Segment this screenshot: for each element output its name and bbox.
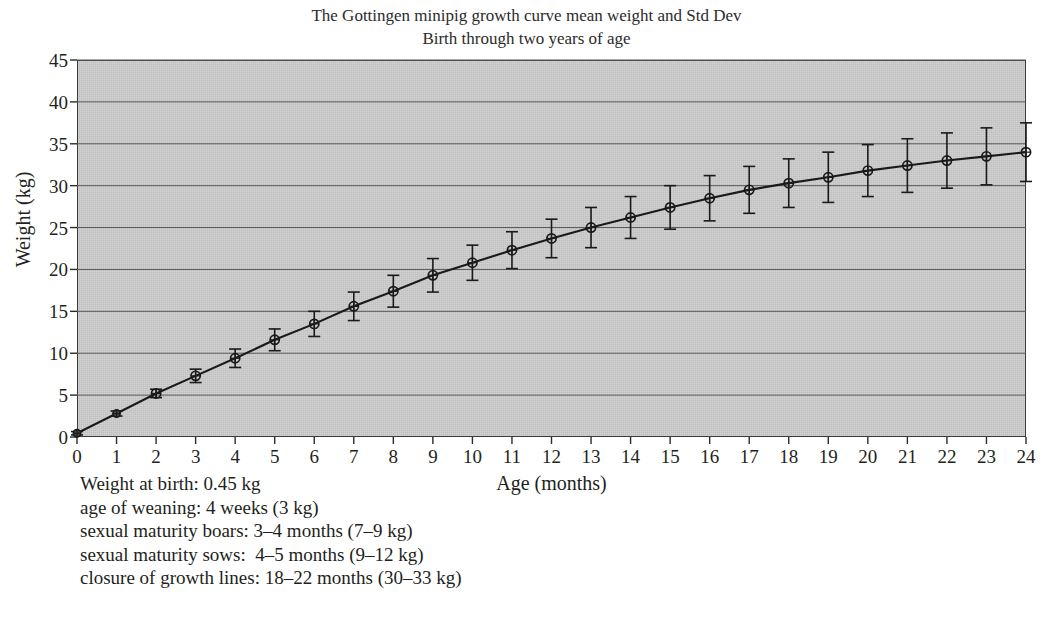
data-point-marker (428, 271, 437, 280)
data-point-marker (1021, 148, 1030, 157)
x-tick-label: 8 (373, 447, 413, 466)
x-tick-label: 10 (452, 447, 492, 466)
data-point-marker (507, 246, 516, 255)
data-point-marker (349, 302, 358, 311)
y-tick-label: 45 (8, 51, 68, 70)
y-tick-label: 10 (8, 344, 68, 363)
x-axis-tick-labels: 0123456789101112131415161718192021222324 (77, 447, 1026, 473)
data-point-marker (824, 173, 833, 182)
data-point-marker (191, 371, 200, 380)
footnote-block: Weight at birth: 0.45 kgage of weaning: … (80, 472, 462, 590)
x-tick-label: 22 (927, 447, 967, 466)
y-tick-label: 40 (8, 93, 68, 112)
x-tick-label: 9 (413, 447, 453, 466)
x-tick-label: 24 (1006, 447, 1046, 466)
data-point-marker (547, 234, 556, 243)
chart-title-line-1: The Gottingen minipig growth curve mean … (0, 4, 1053, 27)
growth-curve-figure: The Gottingen minipig growth curve mean … (0, 0, 1053, 620)
footnote-line: sexual maturity sows: 4–5 months (9–12 k… (80, 543, 462, 567)
x-tick-label: 16 (690, 447, 730, 466)
x-tick-label: 2 (136, 447, 176, 466)
x-tick-label: 21 (887, 447, 927, 466)
footnote-line: sexual maturity boars: 3–4 months (7–9 k… (80, 519, 462, 543)
data-point-marker (270, 335, 279, 344)
x-tick-label: 6 (294, 447, 334, 466)
data-point-marker (863, 166, 872, 175)
x-tick-label: 4 (215, 447, 255, 466)
y-tick-label: 5 (8, 386, 68, 405)
y-tick-label: 0 (8, 428, 68, 447)
x-tick-label: 19 (808, 447, 848, 466)
x-tick-label: 12 (532, 447, 572, 466)
chart-title: The Gottingen minipig growth curve mean … (0, 4, 1053, 50)
x-tick-label: 20 (848, 447, 888, 466)
data-point-marker (468, 258, 477, 267)
x-tick-label: 5 (255, 447, 295, 466)
data-point-marker (666, 203, 675, 212)
data-point-marker (113, 410, 120, 417)
x-tick-label: 23 (966, 447, 1006, 466)
x-tick-label: 7 (334, 447, 374, 466)
series-line-mean-weight (77, 152, 1026, 433)
data-point-marker (389, 287, 398, 296)
data-point-marker (151, 389, 160, 398)
data-point-marker (903, 161, 912, 170)
data-point-marker (586, 223, 595, 232)
footnote-line: age of weaning: 4 weeks (3 kg) (80, 496, 462, 520)
data-point-marker (310, 319, 319, 328)
data-point-marker (626, 213, 635, 222)
data-point-marker (73, 430, 80, 437)
data-point-marker (745, 185, 754, 194)
data-point-marker (231, 354, 240, 363)
x-tick-label: 15 (650, 447, 690, 466)
data-point-marker (942, 156, 951, 165)
x-tick-label: 0 (57, 447, 97, 466)
x-tick-label: 18 (769, 447, 809, 466)
x-tick-label: 13 (571, 447, 611, 466)
x-tick-label: 14 (611, 447, 651, 466)
data-point-marker (705, 194, 714, 203)
data-point-marker (982, 152, 991, 161)
x-tick-label: 1 (97, 447, 137, 466)
data-point-marker (784, 179, 793, 188)
footnote-line: Weight at birth: 0.45 kg (80, 472, 462, 496)
plot-canvas (77, 60, 1026, 437)
plot-area (77, 60, 1026, 437)
x-tick-label: 17 (729, 447, 769, 466)
chart-title-line-2: Birth through two years of age (0, 27, 1053, 50)
y-axis-title: Weight (kg) (12, 120, 35, 320)
x-tick-label: 11 (492, 447, 532, 466)
x-tick-label: 3 (176, 447, 216, 466)
footnote-line: closure of growth lines: 18–22 months (3… (80, 566, 462, 590)
